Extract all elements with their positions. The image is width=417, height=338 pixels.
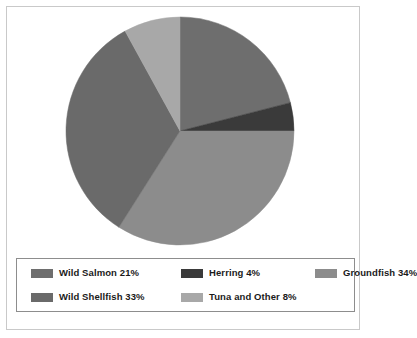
legend-item-wild-shellfish[interactable]: Wild Shellfish 33% [31, 292, 181, 302]
legend-label-herring: Herring 4% [209, 268, 260, 278]
pie-svg [8, 8, 358, 253]
pie-slice-group [66, 17, 294, 245]
legend-item-herring[interactable]: Herring 4% [181, 268, 289, 278]
legend-label-wild-salmon: Wild Salmon 21% [59, 268, 139, 278]
legend-swatch-wild-salmon [31, 269, 53, 278]
legend-swatch-herring [181, 269, 203, 278]
legend-item-groundfish[interactable]: Groundfish 34% [289, 268, 417, 278]
legend-grid: Wild Salmon 21% Herring 4% Groundfish 34… [17, 259, 354, 311]
legend-label-groundfish: Groundfish 34% [343, 268, 417, 278]
legend-swatch-wild-shellfish [31, 293, 53, 302]
legend-swatch-groundfish [315, 269, 337, 278]
chart-legend: Wild Salmon 21% Herring 4% Groundfish 34… [16, 258, 355, 312]
legend-swatch-tuna-and-other [181, 293, 203, 302]
pie-plot-area [8, 8, 358, 253]
legend-item-tuna-and-other[interactable]: Tuna and Other 8% [181, 292, 289, 302]
legend-item-wild-salmon[interactable]: Wild Salmon 21% [31, 268, 181, 278]
legend-label-tuna-and-other: Tuna and Other 8% [209, 292, 297, 302]
legend-label-wild-shellfish: Wild Shellfish 33% [59, 292, 145, 302]
